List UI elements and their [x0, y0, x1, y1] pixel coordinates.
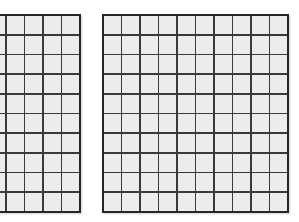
- grid-cell: [215, 173, 232, 191]
- grid-cell: [0, 173, 5, 191]
- grid-cell: [233, 95, 250, 113]
- grid-cell: [141, 173, 158, 191]
- grid-cell: [159, 36, 176, 54]
- figure-canvas: [0, 0, 299, 222]
- grid-cell: [122, 95, 139, 113]
- hundred-grid-left: [0, 14, 81, 213]
- grid-cell: [44, 134, 61, 152]
- grid-cell: [104, 134, 121, 152]
- grid-cell: [270, 134, 287, 152]
- grid-cell: [141, 114, 158, 132]
- grid-cell: [141, 36, 158, 54]
- grid-cell: [159, 154, 176, 172]
- grid-cell: [178, 36, 195, 54]
- grid-cell: [215, 75, 232, 93]
- grid-cell: [178, 95, 195, 113]
- grid-cell: [122, 173, 139, 191]
- grid-cell: [141, 193, 158, 211]
- grid-cell: [104, 95, 121, 113]
- grid-cell: [104, 114, 121, 132]
- grid-cell: [122, 114, 139, 132]
- hundred-grid-right: [102, 14, 289, 213]
- grid-cell: [196, 193, 213, 211]
- grid-cell: [159, 134, 176, 152]
- grid-cell: [233, 36, 250, 54]
- grid-cell: [159, 173, 176, 191]
- grid-cell: [196, 75, 213, 93]
- grid-cell: [270, 173, 287, 191]
- grid-cell: [252, 36, 269, 54]
- grid-cell: [25, 95, 42, 113]
- grid-cell: [44, 16, 61, 34]
- grid-cell: [122, 55, 139, 73]
- grid-cell: [104, 193, 121, 211]
- grid-cell: [178, 193, 195, 211]
- grid-cell: [62, 95, 79, 113]
- grid-cell: [122, 154, 139, 172]
- grid-cell: [7, 154, 24, 172]
- grid-cell: [233, 154, 250, 172]
- grid-cell: [44, 95, 61, 113]
- grid-cell: [0, 36, 5, 54]
- grid-cell: [270, 36, 287, 54]
- grid-cell: [104, 36, 121, 54]
- grid-cell: [196, 95, 213, 113]
- grid-cell: [7, 193, 24, 211]
- grid-cell: [215, 154, 232, 172]
- grid-cell: [0, 55, 5, 73]
- grid-cell: [215, 16, 232, 34]
- grid-cell: [25, 134, 42, 152]
- grid-cell: [270, 193, 287, 211]
- grid-cell: [0, 16, 5, 34]
- grid-cell: [62, 193, 79, 211]
- grid-cell: [270, 154, 287, 172]
- grid-cell: [104, 154, 121, 172]
- grid-cell: [233, 75, 250, 93]
- grid-cell: [233, 114, 250, 132]
- grid-cell: [196, 16, 213, 34]
- grid-cell: [196, 55, 213, 73]
- grid-cell: [25, 193, 42, 211]
- grid-cell: [178, 55, 195, 73]
- grid-cell: [25, 55, 42, 73]
- grid-cell: [159, 114, 176, 132]
- grid-cell: [25, 16, 42, 34]
- grid-cell: [44, 55, 61, 73]
- grid-cell: [25, 154, 42, 172]
- grid-cell: [159, 16, 176, 34]
- grid-cell: [178, 173, 195, 191]
- grid-cell: [178, 154, 195, 172]
- grid-cell: [233, 193, 250, 211]
- grid-cell: [178, 16, 195, 34]
- grid-cell: [7, 16, 24, 34]
- grid-cell: [62, 16, 79, 34]
- grid-cell: [252, 75, 269, 93]
- grid-cell: [44, 36, 61, 54]
- grid-cell: [7, 36, 24, 54]
- grid-cell: [233, 16, 250, 34]
- grid-cell: [7, 114, 24, 132]
- grid-cell: [25, 173, 42, 191]
- grid-cell: [159, 55, 176, 73]
- grid-cell: [44, 114, 61, 132]
- grid-cell: [178, 75, 195, 93]
- grid-cell: [44, 193, 61, 211]
- grid-cell: [215, 55, 232, 73]
- grid-cell: [270, 16, 287, 34]
- grid-cell: [122, 16, 139, 34]
- grid-cell: [178, 134, 195, 152]
- grid-cell: [252, 114, 269, 132]
- grid-cell: [159, 75, 176, 93]
- grid-cell: [122, 75, 139, 93]
- grid-cell: [178, 114, 195, 132]
- grid-cell: [196, 154, 213, 172]
- grid-cell: [141, 16, 158, 34]
- grid-cell: [215, 134, 232, 152]
- grid-cell: [62, 36, 79, 54]
- grid-cell: [159, 193, 176, 211]
- grid-cell: [215, 193, 232, 211]
- grid-cell: [196, 173, 213, 191]
- grid-cell: [104, 173, 121, 191]
- grid-cell: [252, 173, 269, 191]
- grid-cell: [0, 95, 5, 113]
